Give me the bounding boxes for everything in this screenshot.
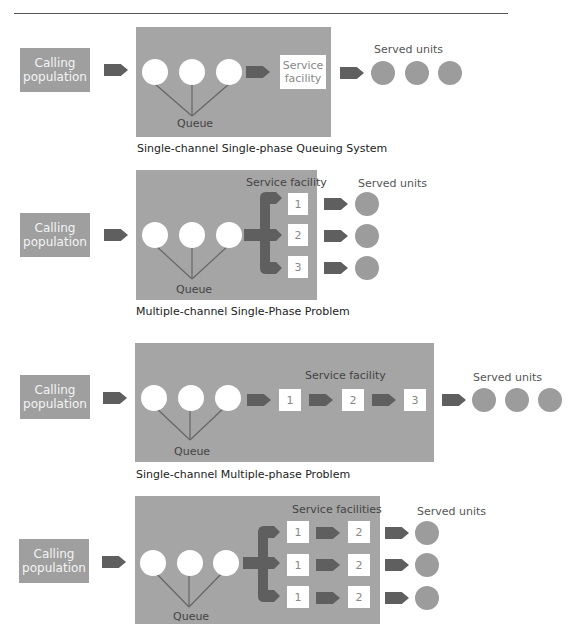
served-unit	[415, 553, 439, 577]
phase2-box: 2	[348, 586, 370, 608]
phase1-box: 1	[287, 586, 309, 608]
phase1-box: 1	[287, 521, 309, 543]
phase1-box: 1	[287, 554, 309, 576]
served-unit	[415, 521, 439, 545]
phase2-box: 2	[348, 554, 370, 576]
phase2-box: 2	[348, 521, 370, 543]
service-facilities-label: Service facilities	[292, 503, 382, 516]
served-unit	[415, 586, 439, 610]
served-units-label: Served units	[417, 505, 486, 518]
